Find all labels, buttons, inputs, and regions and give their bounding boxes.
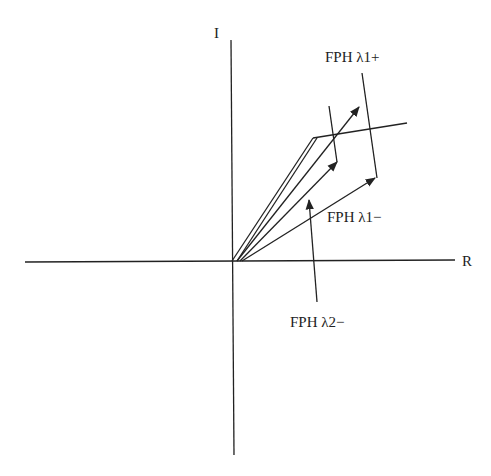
reference-phasor-line-b [237,138,317,261]
vector-fph-l1-plus [237,107,359,261]
phasor-diagram: R I FPH λ1+ FPH λ1− FPH λ2− [0,0,491,476]
connector-line-long [362,73,377,178]
imaginary-axis [231,40,234,455]
label-fph-l1-plus: FPH λ1+ [325,49,380,65]
label-fph-l1-minus: FPH λ1− [327,209,382,225]
label-fph-l2-minus: FPH λ2− [290,314,345,330]
real-axis-label: R [462,253,472,269]
locus-line [313,123,407,138]
imaginary-axis-label: I [214,25,219,41]
